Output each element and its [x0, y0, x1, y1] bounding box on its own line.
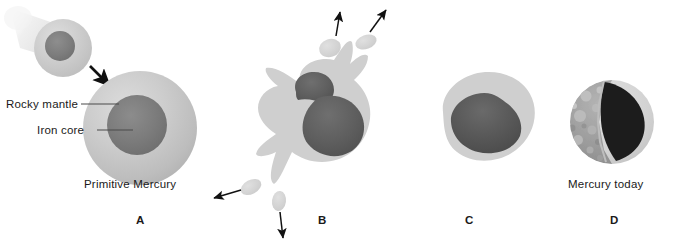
impactor-core [45, 31, 75, 61]
panel-a-caption: Primitive Mercury [84, 178, 176, 190]
panel-d-group [569, 80, 655, 164]
ejecta-arrow-up [336, 12, 340, 36]
panel-a-group [4, 6, 197, 185]
panel-letter-d: D [610, 214, 619, 226]
panel-b-group [214, 10, 386, 238]
ejecta-upper-right [353, 32, 378, 53]
panel-letter-c: C [465, 214, 474, 226]
panel-letter-a: A [136, 214, 145, 226]
ejecta-lower-left [238, 176, 264, 199]
panel-letter-b: B [318, 214, 327, 226]
panel-d-caption: Mercury today [568, 178, 643, 190]
diagram-canvas [0, 0, 678, 246]
mercury-formation-diagram: Rocky mantle Iron core Primitive Mercury… [0, 0, 678, 246]
ejecta-arrow-up-right [370, 10, 386, 32]
ejecta-arrow-down [280, 212, 283, 238]
ejecta-arrow-down-left [214, 190, 241, 198]
iron-core-label: Iron core [37, 124, 84, 136]
ejecta-lower-center [271, 190, 288, 212]
impactor-trail-tip [4, 6, 32, 30]
panel-c-group [443, 72, 535, 161]
rocky-mantle-label: Rocky mantle [6, 98, 78, 110]
